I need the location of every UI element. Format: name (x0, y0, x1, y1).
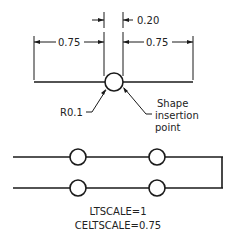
radius-label: R0.1 (60, 107, 83, 118)
shape-circle (149, 149, 165, 165)
example-linetype (13, 149, 223, 196)
shape-circle (149, 180, 165, 196)
shape-label-1: Shape (157, 98, 188, 109)
gap-dimension (92, 12, 133, 28)
shape-label-3: point (155, 122, 181, 133)
linetype-diagram: 0.20 0.75 0.75 R0.1 Shape insertion poin… (0, 0, 237, 240)
left-dimension-label: 0.75 (58, 37, 80, 48)
celtscale-label: CELTSCALE=0.75 (75, 220, 161, 231)
gap-dimension-label: 0.20 (137, 15, 159, 26)
right-dimension-label: 0.75 (146, 37, 168, 48)
insertion-leader (124, 88, 152, 114)
shape-label-2: insertion (155, 110, 199, 121)
shape-circle (70, 149, 86, 165)
shape-circle (70, 180, 86, 196)
ltscale-label: LTSCALE=1 (89, 206, 146, 217)
shape-circle (105, 73, 123, 91)
